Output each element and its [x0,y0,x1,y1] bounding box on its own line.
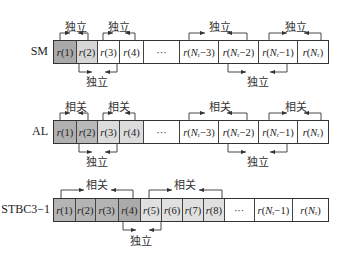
stbc-bottom-label-1: 独立 [130,232,152,248]
al-top-label-2: 相关 [108,98,130,114]
sm-top-label-4: 独立 [285,18,307,34]
al-top-label-1: 相关 [65,98,87,114]
stbc-top-label-2: 相关 [174,176,196,192]
sm-bottom-label-1: 独立 [86,73,108,89]
bracket-arrows [0,0,340,264]
al-bottom-label-1: 独立 [86,153,108,169]
sm-top-label-1: 独立 [65,18,87,34]
stbc-top-label-1: 相关 [86,176,108,192]
sm-top-label-3: 独立 [209,18,231,34]
al-bottom-label-2: 独立 [247,153,269,169]
al-top-label-3: 相关 [209,98,231,114]
sm-top-label-2: 独立 [108,18,130,34]
al-top-label-4: 相关 [285,98,307,114]
sm-bottom-label-2: 独立 [247,73,269,89]
